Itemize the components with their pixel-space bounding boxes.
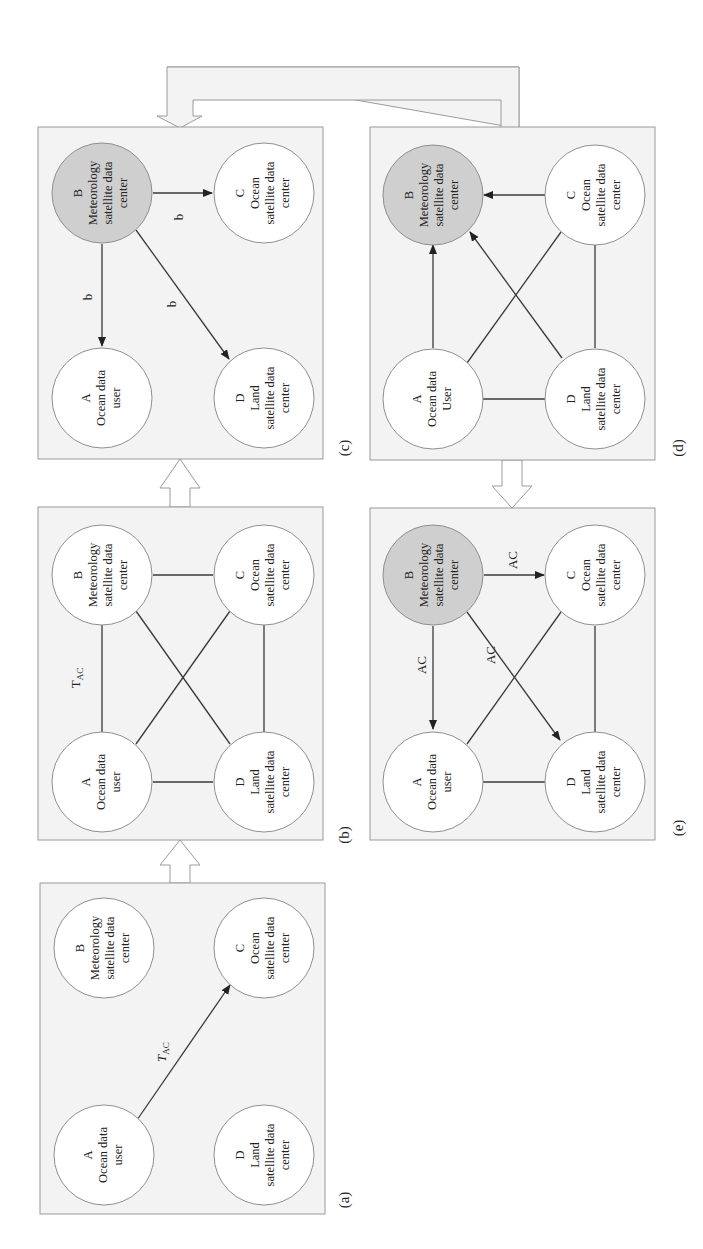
svg-text:Ocean data: Ocean data — [94, 370, 108, 426]
svg-text:center: center — [278, 932, 292, 963]
svg-text:Meteorology: Meteorology — [86, 160, 100, 225]
svg-text:satellite data: satellite data — [263, 543, 277, 606]
svg-text:satellite data: satellite data — [594, 750, 608, 813]
panel-c: b b b B Meteorology satellite data cente… — [38, 127, 353, 459]
svg-text:Ocean: Ocean — [248, 558, 262, 591]
svg-text:satellite data: satellite data — [594, 163, 608, 226]
flow-arrow-b-to-c — [160, 459, 200, 507]
svg-text:B: B — [71, 571, 85, 579]
svg-text:Ocean data: Ocean data — [96, 1127, 110, 1183]
svg-text:center: center — [118, 932, 132, 963]
svg-text:satellite data: satellite data — [594, 543, 608, 606]
svg-text:satellite data: satellite data — [103, 916, 117, 979]
edge-label-b-d: AC — [483, 646, 498, 664]
svg-text:Meteorology: Meteorology — [417, 542, 431, 607]
svg-text:Ocean data: Ocean data — [425, 754, 439, 810]
svg-text:Meteorology: Meteorology — [88, 915, 102, 980]
svg-text:User: User — [440, 386, 454, 410]
svg-text:A: A — [410, 777, 424, 786]
svg-text:satellite data: satellite data — [263, 161, 277, 224]
svg-text:D: D — [233, 777, 247, 786]
flow-arrow-d-to-e — [492, 460, 532, 508]
svg-text:center: center — [278, 1139, 292, 1170]
svg-text:Land: Land — [579, 385, 593, 411]
svg-text:Land: Land — [579, 768, 593, 794]
svg-text:D: D — [564, 394, 578, 403]
flow-arrow-a-to-b — [160, 840, 200, 883]
svg-text:A: A — [79, 393, 93, 402]
svg-text:center: center — [278, 559, 292, 590]
svg-text:C: C — [233, 189, 247, 197]
svg-text:satellite data: satellite data — [263, 366, 277, 429]
svg-text:Ocean data: Ocean data — [425, 371, 439, 427]
svg-text:Ocean data: Ocean data — [94, 754, 108, 810]
panel-label-a: (a) — [336, 1192, 353, 1209]
panel-b: TAC B Meteorology satellite data center … — [38, 507, 353, 844]
panel-label-e: (e) — [670, 820, 687, 837]
svg-text:center: center — [278, 382, 292, 413]
svg-text:Ocean: Ocean — [248, 176, 262, 209]
svg-text:C: C — [564, 191, 578, 199]
svg-text:B: B — [402, 191, 416, 199]
svg-text:C: C — [233, 571, 247, 579]
edge-label-b-c: b — [171, 214, 186, 221]
svg-text:satellite data: satellite data — [101, 543, 115, 606]
svg-text:center: center — [116, 559, 130, 590]
panel-label-c: (c) — [336, 440, 353, 457]
edge-label-b-c: AC — [505, 551, 520, 569]
svg-text:center: center — [609, 766, 623, 797]
panel-d: B Meteorology satellite data center C Oc… — [370, 127, 687, 460]
svg-text:center: center — [447, 179, 461, 210]
svg-text:Meteorology: Meteorology — [417, 162, 431, 227]
svg-text:center: center — [609, 179, 623, 210]
svg-text:B: B — [402, 571, 416, 579]
svg-text:Ocean: Ocean — [579, 178, 593, 211]
svg-text:user: user — [109, 771, 123, 793]
svg-text:satellite data: satellite data — [263, 1123, 277, 1186]
svg-text:A: A — [79, 777, 93, 786]
svg-text:C: C — [564, 571, 578, 579]
svg-text:satellite data: satellite data — [263, 750, 277, 813]
svg-text:center: center — [609, 383, 623, 414]
svg-text:Ocean: Ocean — [248, 931, 262, 964]
svg-text:user: user — [109, 387, 123, 409]
diagram-canvas: b b b B Meteorology satellite data cente… — [0, 0, 703, 1249]
edge-label-b-d: b — [164, 301, 179, 308]
svg-text:D: D — [564, 777, 578, 786]
svg-text:Land: Land — [248, 384, 262, 410]
svg-text:D: D — [233, 393, 247, 402]
svg-text:Meteorology: Meteorology — [86, 542, 100, 607]
svg-text:Ocean: Ocean — [579, 558, 593, 591]
svg-text:satellite data: satellite data — [101, 161, 115, 224]
edge-label-b-a: AC — [414, 656, 429, 674]
svg-text:satellite data: satellite data — [432, 163, 446, 226]
edge-label-b-a: b — [80, 294, 95, 301]
svg-text:satellite data: satellite data — [263, 916, 277, 979]
svg-text:user: user — [111, 1144, 125, 1166]
panel-label-b: (b) — [336, 826, 353, 844]
svg-text:C: C — [233, 944, 247, 952]
panel-label-d: (d) — [670, 439, 687, 457]
svg-text:B: B — [73, 944, 87, 952]
svg-text:satellite data: satellite data — [432, 543, 446, 606]
svg-text:satellite data: satellite data — [594, 367, 608, 430]
svg-text:center: center — [609, 559, 623, 590]
svg-text:A: A — [81, 1150, 95, 1159]
svg-text:center: center — [447, 559, 461, 590]
svg-text:center: center — [278, 766, 292, 797]
panel-e: AC AC AC B Meteorology satellite data ce… — [370, 508, 687, 840]
panel-a: TAC B Meteorology satellite data center … — [40, 883, 353, 1214]
svg-text:center: center — [278, 177, 292, 208]
svg-text:D: D — [233, 1150, 247, 1159]
svg-text:user: user — [440, 771, 454, 793]
svg-text:A: A — [410, 394, 424, 403]
svg-text:Land: Land — [248, 768, 262, 794]
svg-text:B: B — [71, 189, 85, 197]
svg-text:Land: Land — [248, 1141, 262, 1167]
svg-text:center: center — [116, 177, 130, 208]
